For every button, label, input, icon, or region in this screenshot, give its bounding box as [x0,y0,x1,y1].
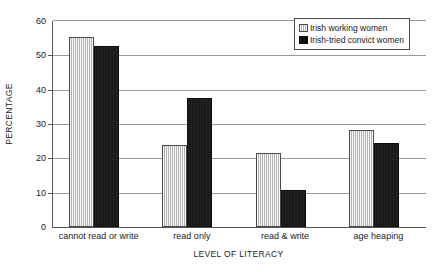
bar-group [239,21,332,227]
bar [374,143,399,227]
y-tick-label: 0 [8,222,52,232]
y-tick-label: 10 [8,188,52,198]
x-tick-label: read & write [239,231,332,241]
bar [187,98,212,227]
legend-item: Irish working women [299,22,404,34]
bar-group [52,21,145,227]
bar [69,37,94,227]
x-axis-title: LEVEL OF LITERACY [52,249,425,259]
bar-group [332,21,425,227]
bar [349,130,374,228]
y-tick-label: 60 [8,16,52,26]
x-tick-label: read only [145,231,238,241]
legend-item: Irish-tried convict women [299,34,404,46]
bar [162,145,187,227]
bar [94,46,119,227]
bar-chart: PERCENTAGE 0102030405060 cannot read or … [0,0,436,272]
x-tick-label: cannot read or write [52,231,145,241]
chart-legend: Irish working women Irish-tried convict … [294,18,410,50]
legend-label-irish-tried-convict-women: Irish-tried convict women [310,35,404,45]
bar-group [145,21,238,227]
bars-layer [52,21,425,227]
x-tick-label: age heaping [332,231,425,241]
bar [256,153,281,227]
legend-swatch-irish-tried-convict-women [299,36,308,44]
y-tick-label: 20 [8,153,52,163]
legend-swatch-irish-working-women [299,24,308,32]
y-tick-label: 50 [8,50,52,60]
y-tick-label: 30 [8,119,52,129]
x-axis-tick-labels: cannot read or writeread onlyread & writ… [52,231,425,247]
legend-label-irish-working-women: Irish working women [310,23,387,33]
y-tick-label: 40 [8,85,52,95]
bar [281,190,306,227]
y-axis-ticks: 0102030405060 [0,0,52,272]
